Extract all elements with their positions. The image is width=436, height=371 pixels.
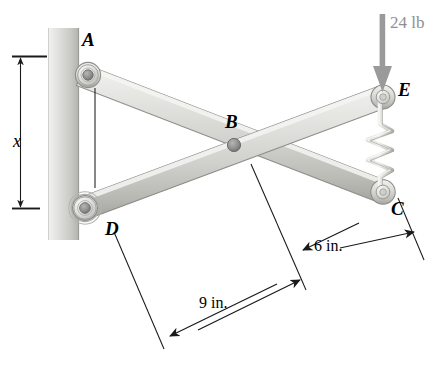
label-load-24lb: 24 lb bbox=[390, 14, 424, 31]
bearing-D bbox=[69, 192, 101, 224]
label-dimension-6in: 6 in. bbox=[314, 238, 342, 254]
extension-line-B bbox=[251, 164, 306, 290]
figure-canvas bbox=[0, 0, 436, 371]
label-point-A: A bbox=[82, 30, 95, 49]
label-point-E: E bbox=[398, 80, 411, 99]
pin-C bbox=[376, 185, 390, 199]
label-point-C: C bbox=[391, 199, 404, 218]
extension-line-D bbox=[114, 232, 164, 349]
bar-D-to-E bbox=[73, 85, 395, 220]
mechanics-figure: A B C D E x 24 lb 9 in. 6 in. bbox=[0, 0, 436, 371]
pin-E bbox=[376, 90, 390, 104]
label-dimension-x: x bbox=[13, 132, 21, 150]
label-dimension-9in: 9 in. bbox=[199, 295, 227, 311]
bearing-A bbox=[78, 65, 99, 86]
dimension-9in bbox=[170, 280, 300, 336]
label-point-B: B bbox=[225, 112, 238, 131]
label-point-D: D bbox=[105, 219, 119, 238]
pin-B bbox=[227, 138, 240, 151]
